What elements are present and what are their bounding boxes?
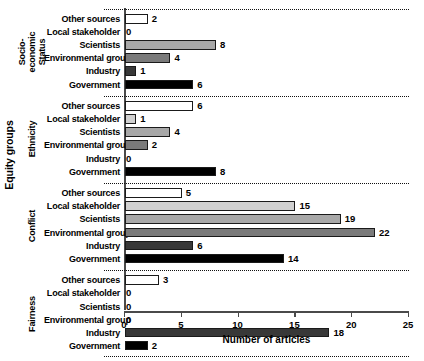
bar-row-label: Local stakeholder xyxy=(44,113,120,125)
x-tick xyxy=(181,311,182,317)
bar-row-label: Industry xyxy=(44,240,120,252)
bar-row: Industry1 xyxy=(0,65,424,77)
bar-value-label: 0 xyxy=(126,301,131,313)
bar-row: Other sources5 xyxy=(0,187,424,199)
x-tick xyxy=(408,311,409,317)
grouped-bar-chart: Equity groups Socio-economicStatusEthnic… xyxy=(0,0,424,361)
bar xyxy=(125,66,136,76)
bar-row: Scientists8 xyxy=(0,39,424,51)
bar-row-label: Scientists xyxy=(44,126,120,138)
bar-row-label: Government xyxy=(44,340,120,352)
bar-value-label: 3 xyxy=(163,274,168,286)
bar-value-label: 22 xyxy=(379,227,390,239)
x-axis-title: Number of articles xyxy=(124,334,409,345)
bar-value-label: 0 xyxy=(126,26,131,38)
group-separator xyxy=(104,183,409,184)
bar-row-label: Government xyxy=(44,79,120,91)
group-separator xyxy=(104,96,409,97)
bar xyxy=(125,201,295,211)
bar-row-label: Local stakeholder xyxy=(44,26,120,38)
bar-row-label: Other sources xyxy=(44,100,120,112)
bar-row-label: Other sources xyxy=(44,13,120,25)
bar xyxy=(125,275,159,285)
bar xyxy=(125,53,170,63)
bar-row-label: Environmental group xyxy=(44,139,120,151)
bar-row: Government8 xyxy=(0,166,424,178)
bar-value-label: 1 xyxy=(140,113,145,125)
bar-value-label: 19 xyxy=(345,213,356,225)
bar xyxy=(125,167,216,177)
group-separator xyxy=(104,356,409,357)
x-tick-label: 15 xyxy=(289,319,300,330)
bar-value-label: 5 xyxy=(186,187,191,199)
x-tick xyxy=(351,311,352,317)
bar-row: Local stakeholder0 xyxy=(0,287,424,299)
bar xyxy=(125,241,193,251)
bar-value-label: 8 xyxy=(220,166,225,178)
bar-value-label: 6 xyxy=(197,240,202,252)
bar-value-label: 6 xyxy=(197,100,202,112)
bar-row: Government6 xyxy=(0,79,424,91)
bar xyxy=(125,228,375,238)
bar-row: Local stakeholder15 xyxy=(0,200,424,212)
bar-row-label: Local stakeholder xyxy=(44,200,120,212)
bar xyxy=(125,40,216,50)
bar-row: Industry6 xyxy=(0,240,424,252)
group-separator xyxy=(104,270,409,271)
bar xyxy=(125,188,182,198)
bar xyxy=(125,80,193,90)
bar-row-label: Government xyxy=(44,253,120,265)
bar-row: Local stakeholder1 xyxy=(0,113,424,125)
bar-row: Environmental group2 xyxy=(0,139,424,151)
x-tick xyxy=(238,311,239,317)
bar-row-label: Local stakeholder xyxy=(44,287,120,299)
bar-value-label: 6 xyxy=(197,79,202,91)
bar-row-label: Other sources xyxy=(44,274,120,286)
x-tick-label: 25 xyxy=(403,319,414,330)
bar xyxy=(125,140,148,150)
x-tick-label: 10 xyxy=(232,319,243,330)
bar-row: Other sources2 xyxy=(0,13,424,25)
bar-row-label: Scientists xyxy=(44,301,120,313)
bar-row: Scientists4 xyxy=(0,126,424,138)
bar-row: Other sources3 xyxy=(0,274,424,286)
bar-row: Scientists19 xyxy=(0,213,424,225)
bar-value-label: 0 xyxy=(126,314,131,326)
x-tick-label: 5 xyxy=(178,319,183,330)
x-tick-label: 0 xyxy=(121,319,126,330)
bar-row-label: Industry xyxy=(44,65,120,77)
x-tick xyxy=(124,311,125,317)
bar-row: Industry0 xyxy=(0,153,424,165)
bar-row-label: Environmental group xyxy=(44,52,120,64)
bar xyxy=(125,14,148,24)
bar-value-label: 8 xyxy=(220,39,225,51)
bar-value-label: 4 xyxy=(174,126,179,138)
bar-row-label: Other sources xyxy=(44,187,120,199)
group-separator xyxy=(104,9,409,10)
bar-row-label: Scientists xyxy=(44,39,120,51)
bar-value-label: 0 xyxy=(126,287,131,299)
bar xyxy=(125,114,136,124)
bar-row: Government14 xyxy=(0,253,424,265)
bar-value-label: 0 xyxy=(126,153,131,165)
bar-row: Environmental group4 xyxy=(0,52,424,64)
bar-row: Other sources6 xyxy=(0,100,424,112)
x-tick xyxy=(294,311,295,317)
bar-row: Environmental group0 xyxy=(0,314,424,326)
bar xyxy=(125,127,170,137)
bar-row-label: Environmental group xyxy=(44,314,120,326)
bar-value-label: 2 xyxy=(152,139,157,151)
bar-value-label: 2 xyxy=(152,13,157,25)
bar xyxy=(125,101,193,111)
bar-value-label: 14 xyxy=(288,253,299,265)
bar-row: Scientists0 xyxy=(0,301,424,313)
bar-row-label: Government xyxy=(44,166,120,178)
bar-row-label: Industry xyxy=(44,153,120,165)
bar xyxy=(125,214,341,224)
x-tick-label: 20 xyxy=(346,319,357,330)
bar-row-label: Scientists xyxy=(44,213,120,225)
bar-row-label: Industry xyxy=(44,327,120,339)
bar-row: Local stakeholder0 xyxy=(0,26,424,38)
bar-row: Environmental group22 xyxy=(0,227,424,239)
bar xyxy=(125,254,284,264)
